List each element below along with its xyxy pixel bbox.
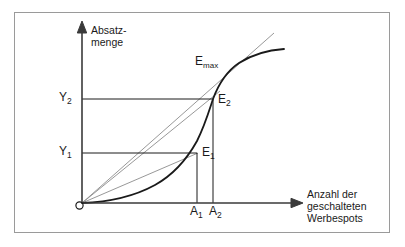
- x-tick-a2-sub: 2: [217, 210, 222, 220]
- point-label-e2: E2: [218, 93, 231, 106]
- point-e2-base: E: [218, 92, 226, 106]
- point-label-emax: Emax: [195, 55, 218, 68]
- x-axis-arrowhead: [291, 198, 303, 207]
- y-axis-title-line2: menge: [91, 36, 123, 48]
- x-tick-a1-base: A: [190, 204, 198, 218]
- x-axis-title: Anzahl dergeschaltetenWerbespots: [307, 189, 367, 224]
- point-e2-sub: 2: [226, 98, 231, 108]
- point-e1-sub: 1: [210, 151, 215, 161]
- point-e1-base: E: [202, 145, 210, 159]
- point-emax-sub: max: [203, 61, 218, 70]
- y-tick-y2-sub: 2: [67, 96, 72, 106]
- y-axis-arrowhead: [77, 21, 86, 33]
- origin-marker-circle: [76, 202, 83, 209]
- y-tick-y1-sub: 1: [67, 150, 72, 160]
- x-axis-title-line1: Anzahl der: [307, 188, 357, 200]
- response-curve: [82, 49, 284, 203]
- figure-frame: Absatz-menge Anzahl dergeschaltetenWerbe…: [14, 12, 390, 233]
- point-emax-base: E: [195, 54, 203, 68]
- x-axis-title-line3: Werbespots: [307, 212, 363, 224]
- x-tick-label-a1: A1: [190, 205, 203, 218]
- x-tick-label-a2: A2: [209, 205, 222, 218]
- y-tick-label-y1: Y1: [59, 145, 72, 158]
- y-tick-y2-base: Y: [59, 90, 67, 104]
- y-axis-title: Absatz-menge: [91, 25, 127, 49]
- x-tick-a2-base: A: [209, 204, 217, 218]
- y-tick-y1-base: Y: [59, 144, 67, 158]
- ray-through-e1: [82, 153, 198, 203]
- figure-root: Absatz-menge Anzahl dergeschaltetenWerbe…: [0, 0, 405, 247]
- x-tick-a1-sub: 1: [198, 210, 203, 220]
- y-axis-title-line1: Absatz-: [91, 24, 127, 36]
- y-tick-label-y2: Y2: [59, 91, 72, 104]
- point-label-e1: E1: [202, 146, 215, 159]
- x-axis-title-line2: geschalteten: [307, 200, 367, 212]
